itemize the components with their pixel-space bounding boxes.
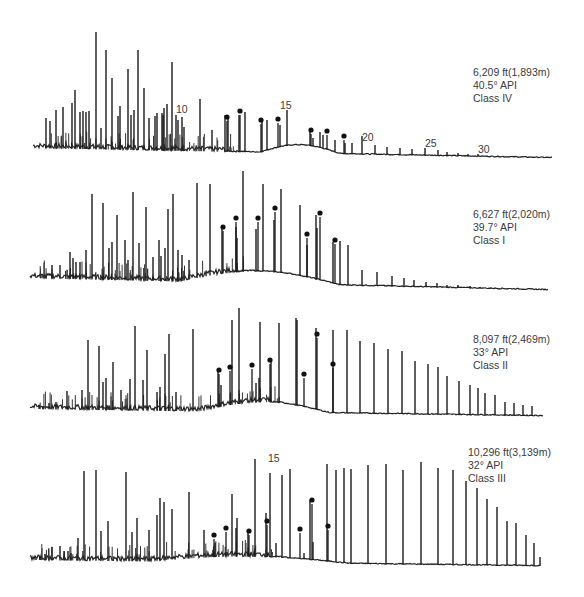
api-gravity-label: 39.7° API [473, 221, 550, 234]
oil-class-label: Class III [468, 472, 551, 485]
baseline [30, 398, 543, 416]
depth-label: 10,296 ft(3,139m) [468, 446, 551, 459]
peak-marker-dot [224, 114, 229, 119]
peak-marker-dot [249, 362, 254, 367]
peak-marker-dot [216, 367, 221, 372]
peak-marker-dot [297, 526, 302, 531]
peak-marker-dot [341, 133, 346, 138]
chromatogram-trace-class-i [30, 171, 548, 290]
peak-marker-dot [330, 361, 335, 366]
peak-marker-dot [275, 116, 280, 121]
trace-label-class-i: 6,627 ft(2,020m) 39.7° API Class I [473, 208, 550, 247]
peak-marker-dot [223, 525, 228, 530]
carbon-number-label: 30 [478, 143, 490, 155]
oil-class-label: Class I [473, 234, 550, 247]
carbon-number-label: 15 [280, 99, 292, 111]
peak-marker-dot [308, 127, 313, 132]
carbon-number-label: 25 [425, 137, 437, 149]
peak-marker-dot [325, 523, 330, 528]
peak-marker-dot [324, 128, 329, 133]
chromatogram-trace-class-iii: 15 [30, 452, 540, 566]
peak-marker-dot [314, 331, 319, 336]
chromatogram-trace-class-ii [30, 308, 543, 416]
depth-label: 6,627 ft(2,020m) [473, 208, 550, 221]
peak-marker-dot [246, 528, 251, 533]
depth-label: 8,097 ft(2,469m) [473, 333, 550, 346]
peak-marker-dot [267, 357, 272, 362]
oil-class-label: Class IV [473, 92, 550, 105]
peak-marker-dot [264, 518, 269, 523]
api-gravity-label: 32° API [468, 459, 551, 472]
peak-marker-dot [211, 532, 216, 537]
depth-label: 6,209 ft(1,893m) [473, 66, 550, 79]
peak-marker-dot [332, 237, 337, 242]
api-gravity-label: 40.5° API [473, 79, 550, 92]
peak-marker-dot [233, 215, 238, 220]
peak-marker-dot [301, 371, 306, 376]
carbon-number-label: 10 [176, 103, 188, 115]
baseline [30, 552, 540, 566]
peak-marker-dot [304, 231, 309, 236]
api-gravity-label: 33° API [473, 346, 550, 359]
peak-marker-dot [237, 108, 242, 113]
peak-marker-dot [258, 117, 263, 122]
peak-marker-dot [255, 215, 260, 220]
peak-marker-dot [227, 364, 232, 369]
oil-class-label: Class II [473, 359, 550, 372]
peak-marker-dot [317, 210, 322, 215]
trace-label-class-iv: 6,209 ft(1,893m) 40.5° API Class IV [473, 66, 550, 105]
carbon-number-label: 15 [268, 452, 280, 464]
peak-marker-dot [272, 205, 277, 210]
carbon-number-label: 20 [362, 131, 374, 143]
trace-label-class-iii: 10,296 ft(3,139m) 32° API Class III [468, 446, 551, 485]
trace-label-class-ii: 8,097 ft(2,469m) 33° API Class II [473, 333, 550, 372]
peak-marker-dot [309, 497, 314, 502]
peak-marker-dot [220, 224, 225, 229]
